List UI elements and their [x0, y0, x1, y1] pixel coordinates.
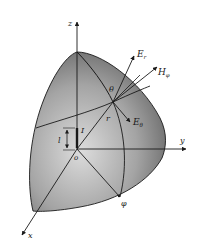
- h-phi-label: Hφ: [157, 67, 170, 79]
- phi-label: φ: [121, 199, 127, 208]
- phi-point: [118, 195, 120, 197]
- length-label: l: [58, 136, 61, 145]
- y-axis-label: y: [179, 136, 185, 145]
- e-r-label: Er: [136, 49, 147, 60]
- z-axis-label: z: [67, 19, 73, 28]
- theta-label: θ: [109, 85, 114, 94]
- x-axis-label: x: [28, 231, 33, 240]
- origin-label: o: [74, 154, 78, 162]
- dipole-radiation-diagram: z y x o I l r θ φ Er Hφ Eθ: [0, 0, 208, 252]
